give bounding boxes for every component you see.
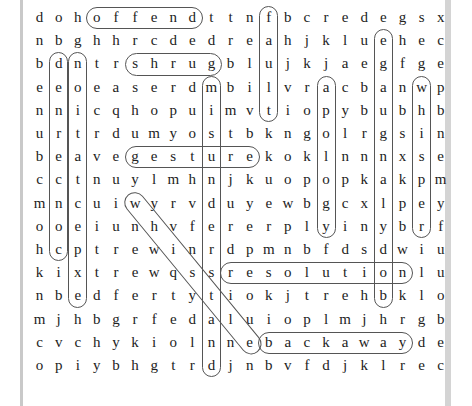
grid-letter[interactable]: e	[374, 6, 393, 29]
grid-letter[interactable]: e	[202, 215, 221, 238]
grid-letter[interactable]: e	[240, 145, 259, 168]
grid-letter[interactable]: t	[87, 52, 106, 75]
grid-letter[interactable]: v	[278, 354, 297, 377]
grid-letter[interactable]: r	[393, 354, 412, 377]
grid-letter[interactable]: c	[145, 29, 164, 52]
grid-letter[interactable]: n	[164, 6, 183, 29]
grid-letter[interactable]: r	[106, 261, 125, 284]
grid-letter[interactable]: b	[393, 215, 412, 238]
grid-letter[interactable]: f	[393, 52, 412, 75]
grid-letter[interactable]: r	[183, 354, 202, 377]
grid-letter[interactable]: d	[202, 192, 221, 215]
grid-letter[interactable]: x	[431, 6, 450, 29]
grid-letter[interactable]: l	[412, 261, 431, 284]
grid-letter[interactable]: w	[278, 192, 297, 215]
grid-letter[interactable]: n	[87, 168, 106, 191]
grid-letter[interactable]: b	[221, 76, 240, 99]
grid-letter[interactable]: k	[240, 168, 259, 191]
grid-letter[interactable]: o	[164, 331, 183, 354]
grid-letter[interactable]: o	[240, 284, 259, 307]
grid-letter[interactable]: h	[355, 284, 374, 307]
grid-letter[interactable]: e	[374, 29, 393, 52]
grid-letter[interactable]: j	[278, 284, 297, 307]
grid-letter[interactable]: g	[412, 308, 431, 331]
grid-letter[interactable]: t	[68, 122, 87, 145]
grid-letter[interactable]: u	[374, 99, 393, 122]
grid-letter[interactable]: b	[374, 284, 393, 307]
grid-letter[interactable]: y	[393, 331, 412, 354]
grid-letter[interactable]: j	[317, 52, 336, 75]
grid-letter[interactable]: c	[68, 331, 87, 354]
grid-letter[interactable]: n	[431, 122, 450, 145]
grid-letter[interactable]: s	[202, 122, 221, 145]
grid-letter[interactable]: m	[164, 168, 183, 191]
grid-letter[interactable]: e	[68, 284, 87, 307]
grid-letter[interactable]: h	[183, 168, 202, 191]
grid-letter[interactable]: e	[145, 145, 164, 168]
grid-letter[interactable]: k	[297, 52, 316, 75]
grid-letter[interactable]: e	[412, 192, 431, 215]
grid-letter[interactable]: d	[49, 52, 68, 75]
grid-letter[interactable]: e	[126, 261, 145, 284]
grid-letter[interactable]: o	[297, 99, 316, 122]
grid-letter[interactable]: f	[317, 238, 336, 261]
grid-letter[interactable]: u	[183, 52, 202, 75]
grid-letter[interactable]: d	[317, 354, 336, 377]
grid-letter[interactable]: d	[336, 238, 355, 261]
grid-letter[interactable]: i	[106, 192, 125, 215]
grid-letter[interactable]: e	[431, 52, 450, 75]
grid-letter[interactable]: t	[297, 284, 316, 307]
grid-letter[interactable]: i	[278, 99, 297, 122]
grid-letter[interactable]: h	[106, 29, 125, 52]
grid-letter[interactable]: j	[49, 308, 68, 331]
grid-letter[interactable]: b	[49, 284, 68, 307]
grid-letter[interactable]: s	[164, 145, 183, 168]
grid-letter[interactable]: b	[30, 145, 49, 168]
grid-letter[interactable]: e	[126, 284, 145, 307]
grid-letter[interactable]: u	[317, 261, 336, 284]
grid-letter[interactable]: i	[355, 261, 374, 284]
grid-letter[interactable]: b	[431, 308, 450, 331]
grid-letter[interactable]: n	[49, 192, 68, 215]
grid-letter[interactable]: b	[355, 99, 374, 122]
grid-letter[interactable]: b	[259, 354, 278, 377]
grid-letter[interactable]: r	[49, 122, 68, 145]
grid-letter[interactable]: r	[297, 76, 316, 99]
grid-letter[interactable]: u	[259, 52, 278, 75]
grid-letter[interactable]: n	[68, 52, 87, 75]
grid-letter[interactable]: p	[240, 238, 259, 261]
grid-letter[interactable]: o	[68, 76, 87, 99]
grid-letter[interactable]: g	[202, 52, 221, 75]
grid-letter[interactable]: b	[355, 76, 374, 99]
grid-letter[interactable]: g	[393, 6, 412, 29]
grid-letter[interactable]: e	[183, 29, 202, 52]
grid-letter[interactable]: f	[106, 284, 125, 307]
grid-letter[interactable]: a	[278, 331, 297, 354]
grid-letter[interactable]: n	[30, 99, 49, 122]
grid-letter[interactable]: y	[164, 122, 183, 145]
grid-letter[interactable]: j	[221, 354, 240, 377]
grid-letter[interactable]: o	[278, 168, 297, 191]
grid-letter[interactable]: f	[106, 6, 125, 29]
grid-letter[interactable]: b	[259, 331, 278, 354]
grid-letter[interactable]: r	[412, 215, 431, 238]
grid-letter[interactable]: i	[412, 238, 431, 261]
grid-letter[interactable]: t	[183, 145, 202, 168]
grid-letter[interactable]: p	[297, 168, 316, 191]
grid-letter[interactable]: r	[126, 29, 145, 52]
grid-letter[interactable]: m	[145, 122, 164, 145]
grid-letter[interactable]: u	[221, 192, 240, 215]
grid-letter[interactable]: l	[317, 145, 336, 168]
grid-letter[interactable]: r	[221, 261, 240, 284]
grid-letter[interactable]: u	[87, 192, 106, 215]
grid-letter[interactable]: c	[30, 168, 49, 191]
grid-letter[interactable]: l	[374, 192, 393, 215]
grid-letter[interactable]: c	[431, 29, 450, 52]
grid-letter[interactable]: h	[412, 99, 431, 122]
grid-letter[interactable]: k	[355, 354, 374, 377]
grid-letter[interactable]: e	[336, 284, 355, 307]
grid-letter[interactable]: l	[317, 308, 336, 331]
grid-letter[interactable]: n	[355, 215, 374, 238]
grid-letter[interactable]: k	[355, 168, 374, 191]
grid-letter[interactable]: s	[126, 76, 145, 99]
